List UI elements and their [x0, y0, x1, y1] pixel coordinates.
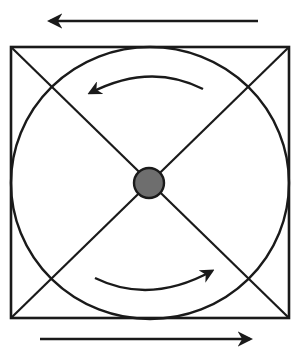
rotation-diagram	[0, 0, 307, 352]
center-hub	[134, 168, 164, 198]
bottom-curved-arrow	[95, 271, 212, 290]
top-curved-arrow	[90, 76, 203, 93]
